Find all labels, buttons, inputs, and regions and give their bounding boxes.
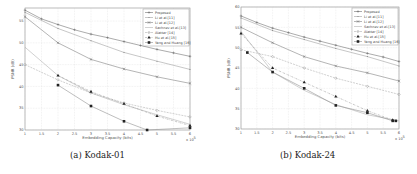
svg-text:5.5: 5.5: [380, 131, 386, 135]
svg-text:5: 5: [156, 132, 158, 136]
svg-text:35: 35: [19, 106, 24, 110]
svg-text:30: 30: [19, 128, 24, 132]
line-chart-a: 11.522.533.544.555.56303540455055Embeddi…: [0, 0, 210, 145]
svg-text:5: 5: [366, 131, 368, 135]
svg-text:1.5: 1.5: [254, 131, 260, 135]
svg-text:Li et al.[12]: Li et al.[12]: [155, 21, 175, 25]
svg-text:2.5: 2.5: [72, 132, 78, 136]
svg-text:55: 55: [19, 19, 24, 23]
svg-text:45: 45: [235, 66, 240, 70]
caption-a: (a) Kodak-01: [70, 150, 125, 160]
svg-text:6: 6: [189, 132, 192, 136]
svg-text:PSNR (dB): PSNR (dB): [226, 58, 231, 78]
svg-text:5: 5: [403, 135, 405, 139]
chart-kodak-24: 11.522.533.544.555.5630354045505560Embed…: [210, 0, 417, 145]
svg-text:1.5: 1.5: [39, 132, 45, 136]
caption-b: (b) Kodak-24: [280, 150, 335, 160]
svg-text:Li et al.[11]: Li et al.[11]: [155, 16, 175, 20]
svg-text:Li et al.[11]: Li et al.[11]: [364, 15, 384, 19]
svg-text:2: 2: [271, 131, 273, 135]
svg-text:40: 40: [19, 85, 24, 89]
legend: ProposedLi et al.[11]Li et al.[12]Sachne…: [143, 9, 191, 46]
svg-text:30: 30: [235, 127, 240, 131]
svg-text:Hu et al.[15]: Hu et al.[15]: [155, 36, 177, 40]
svg-text:40: 40: [235, 87, 240, 91]
svg-text:55: 55: [235, 26, 240, 30]
svg-text:Yang and Huang [16]: Yang and Huang [16]: [364, 40, 400, 44]
svg-text:4.5: 4.5: [138, 132, 144, 136]
svg-text:Sachnev et al.[13]: Sachnev et al.[13]: [155, 26, 187, 30]
svg-text:4.5: 4.5: [349, 131, 355, 135]
svg-text:60: 60: [235, 5, 240, 9]
svg-text:6: 6: [398, 131, 401, 135]
svg-text:2: 2: [57, 132, 59, 136]
svg-text:50: 50: [19, 41, 24, 45]
svg-text:Li et al.[12]: Li et al.[12]: [364, 20, 384, 24]
svg-text:Embedding Capacity (bits): Embedding Capacity (bits): [295, 134, 346, 139]
svg-text:50: 50: [235, 46, 240, 50]
svg-text:Proposed: Proposed: [364, 10, 380, 14]
svg-text:1: 1: [24, 132, 26, 136]
chart-kodak-01: 11.522.533.544.555.56303540455055Embeddi…: [0, 0, 210, 145]
svg-text:Alattar [14]: Alattar [14]: [155, 31, 175, 35]
svg-text:PSNR (dB): PSNR (dB): [10, 59, 15, 79]
svg-text:Embedding Capacity (bits): Embedding Capacity (bits): [82, 135, 133, 140]
svg-text:Alattar [14]: Alattar [14]: [364, 30, 384, 34]
svg-text:Yang and Huang [16]: Yang and Huang [16]: [155, 41, 191, 45]
svg-text:Hu et al.[15]: Hu et al.[15]: [364, 35, 386, 39]
svg-text:Sachnev et al.[13]: Sachnev et al.[13]: [364, 25, 396, 29]
svg-text:35: 35: [235, 107, 240, 111]
svg-text:Proposed: Proposed: [155, 11, 171, 15]
svg-text:45: 45: [19, 63, 24, 67]
svg-text:1: 1: [240, 131, 242, 135]
svg-text:5: 5: [194, 136, 196, 140]
legend: ProposedLi et al.[11]Li et al.[12]Sachne…: [352, 8, 400, 45]
svg-text:2.5: 2.5: [286, 131, 292, 135]
svg-text:5.5: 5.5: [171, 132, 177, 136]
line-chart-b: 11.522.533.544.555.5630354045505560Embed…: [210, 0, 417, 145]
